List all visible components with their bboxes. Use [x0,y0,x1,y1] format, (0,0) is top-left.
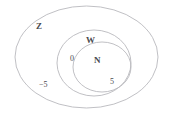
element-label-zero: 0 [70,55,74,63]
element-label-five: 5 [110,78,114,86]
set-label-z: Z [36,22,42,31]
element-label-negative-five: −5 [39,81,48,89]
set-label-n: N [94,56,101,65]
set-label-w: W [86,36,95,45]
euler-diagram-canvas: Z W N −5 0 5 [0,0,171,116]
set-ellipse-n [73,42,131,92]
set-ellipses-group [0,0,171,116]
